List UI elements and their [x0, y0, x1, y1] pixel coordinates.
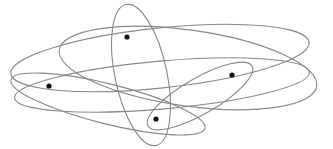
hyperedge-e3 — [6, 60, 210, 147]
hyperedge-layer — [6, 0, 322, 149]
hypergraph-svg — [0, 0, 333, 149]
hyperedge-e4 — [101, 0, 182, 149]
node-n3 — [229, 72, 234, 77]
hyperedge-e5 — [8, 12, 313, 103]
node-n4 — [153, 116, 158, 121]
node-n2 — [46, 83, 51, 88]
hypergraph-diagram — [0, 0, 333, 149]
hyperedge-e6 — [139, 50, 261, 141]
hyperedge-e2 — [12, 48, 311, 122]
node-n1 — [124, 34, 129, 39]
